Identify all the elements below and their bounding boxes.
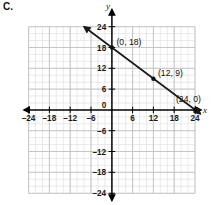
data-point-dot-24-0 xyxy=(193,108,197,112)
y-tick-label-18: 18 xyxy=(97,44,107,53)
x-tick-label-24: 24 xyxy=(190,114,200,123)
x-tick-label--18: –18 xyxy=(43,114,57,123)
graph-figure: C. xyxy=(0,0,218,205)
x-tick-label--12: –12 xyxy=(63,114,77,123)
point-label-12-9: (12, 9) xyxy=(158,68,183,78)
x-tick-labels: –24 –18 –12 –6 6 12 18 24 xyxy=(22,114,200,123)
y-tick-label-origin: 0 xyxy=(102,101,107,110)
y-tick-label-12: 12 xyxy=(97,64,107,73)
y-tick-label-6: 6 xyxy=(102,85,107,94)
y-tick-label-24: 24 xyxy=(97,23,107,32)
coordinate-plane: –24 –18 –12 –6 6 12 18 24 24 18 12 6 0 –… xyxy=(0,0,218,205)
y-tick-label--24: –24 xyxy=(93,189,107,198)
x-axis-name: x xyxy=(202,105,207,115)
x-tick-label-12: 12 xyxy=(149,114,159,123)
choice-letter-label: C. xyxy=(3,2,13,12)
y-tick-label--12: –12 xyxy=(93,148,107,157)
x-tick-label--6: –6 xyxy=(86,114,96,123)
y-axis-name: y xyxy=(105,1,110,11)
data-point-dot-0-18 xyxy=(110,45,114,49)
y-tick-label--18: –18 xyxy=(93,168,107,177)
y-tick-label--6: –6 xyxy=(97,127,107,136)
x-tick-label-18: 18 xyxy=(170,114,180,123)
point-label-24-0: (24, 0) xyxy=(176,94,201,104)
x-tick-label-6: 6 xyxy=(130,114,135,123)
data-point-dot-12-9 xyxy=(151,77,155,81)
point-label-0-18: (0, 18) xyxy=(117,37,142,47)
x-tick-label--24: –24 xyxy=(22,114,36,123)
